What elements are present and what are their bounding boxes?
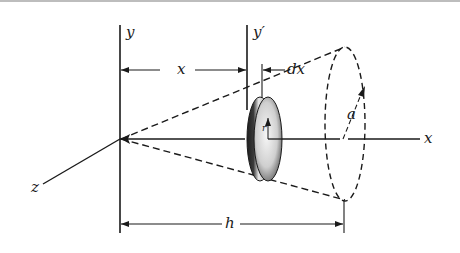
dx-dimension-marker <box>262 64 285 100</box>
radius-a-label: a <box>347 107 356 122</box>
disk-element <box>247 97 282 181</box>
radius-r-label: r <box>262 124 266 133</box>
y-axis-label: y <box>126 25 134 40</box>
x-dimension-label: x <box>177 62 185 77</box>
cone-base-ellipse <box>325 47 365 201</box>
y-prime-axis-label: y′ <box>253 25 265 40</box>
z-axis-label: z <box>31 180 39 195</box>
z-axis <box>43 139 120 184</box>
dx-dimension-label: dx <box>287 62 305 77</box>
x-axis-label: x <box>424 131 432 146</box>
h-dimension-label: h <box>225 216 235 231</box>
